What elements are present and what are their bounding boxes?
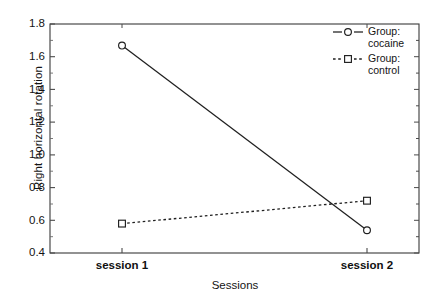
y-axis-title: Right horizontal rotation — [32, 28, 44, 228]
x-tick-label-session-1: session 1 — [96, 259, 148, 271]
legend-key-cocaine-line-circle-icon — [333, 26, 363, 38]
x-axis-title: Sessions — [50, 279, 420, 291]
chart-figure: 0.4 0.6 0.8 1.0 1.2 1.4 1.6 1.8 session … — [0, 0, 434, 302]
legend-entry-cocaine: Group: cocaine — [333, 26, 417, 49]
legend-entry-control: Group: control — [333, 53, 417, 76]
x-tick-label-session-2: session 2 — [341, 259, 393, 271]
legend-label-cocaine: Group: cocaine — [368, 26, 404, 49]
legend-label-control: Group: control — [368, 53, 400, 76]
legend-key-control-line-square-icon — [333, 53, 363, 65]
chart-legend: Group: cocaine Group: control — [333, 26, 417, 80]
